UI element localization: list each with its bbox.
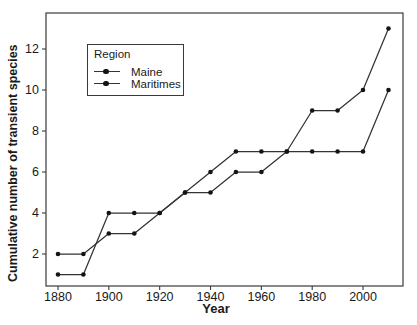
series-maritimes-point [208, 190, 213, 195]
y-tick-label: 12 [25, 42, 39, 56]
series-maine-point [107, 211, 112, 216]
series-maritimes-point [56, 252, 61, 257]
series-maine-point [259, 149, 264, 154]
series-maine-point [56, 272, 61, 277]
y-tick-label: 6 [32, 165, 39, 179]
series-maritimes-point [259, 170, 264, 175]
line-marker-icon [94, 79, 120, 89]
figure: 188019001920194019601980200024681012 Cum… [0, 0, 417, 325]
y-tick-label: 2 [32, 247, 39, 261]
series-maritimes-point [234, 170, 239, 175]
line-marker-icon [94, 67, 120, 77]
series-maritimes-point [107, 231, 112, 236]
y-tick-label: 8 [32, 124, 39, 138]
series-maine-point [361, 88, 366, 93]
series-maine-point [310, 108, 315, 113]
series-maritimes-point [335, 149, 340, 154]
legend-label-maine: Maine [131, 66, 162, 78]
series-maine-point [208, 170, 213, 175]
series-maritimes-point [81, 252, 86, 257]
series-maritimes-point [285, 149, 290, 154]
series-maine-point [335, 108, 340, 113]
series-maritimes-line [58, 90, 389, 254]
x-axis-title: Year [46, 301, 386, 316]
series-maritimes-point [132, 231, 137, 236]
legend: Region Maine Maritimes [87, 44, 184, 96]
series-maritimes-point [386, 88, 391, 93]
chart-canvas: 188019001920194019601980200024681012 [0, 0, 417, 325]
y-tick-label: 4 [32, 206, 39, 220]
legend-item-maritimes: Maritimes [94, 78, 183, 89]
series-maritimes-point [310, 149, 315, 154]
series-maine-point [386, 26, 391, 31]
y-axis-title: Cumulative number of transient species [6, 58, 22, 282]
series-maine-point [234, 149, 239, 154]
legend-label-maritimes: Maritimes [131, 78, 181, 90]
legend-item-maine: Maine [94, 66, 183, 77]
series-maine-point [81, 272, 86, 277]
series-maine-point [132, 211, 137, 216]
series-maritimes-point [361, 149, 366, 154]
series-maritimes-point [183, 190, 188, 195]
y-tick-label: 10 [25, 83, 39, 97]
legend-title: Region [94, 48, 183, 60]
series-maritimes-point [157, 211, 162, 216]
